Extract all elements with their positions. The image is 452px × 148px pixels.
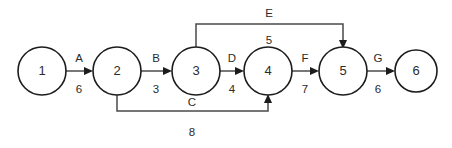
activity-network-diagram: A 6 B 3 C 8 D 4 E 5 [0,0,452,148]
edge-f-label: F [301,52,308,64]
edge-a-weight: 6 [76,83,82,95]
edge-g[interactable]: G 6 [367,52,395,95]
node-3[interactable]: 3 [172,47,220,95]
edge-f-weight: 7 [302,83,308,95]
edge-a[interactable]: A 6 [66,52,93,95]
edge-d-weight: 4 [229,83,236,95]
edge-a-arrowhead [84,67,93,75]
node-1[interactable]: 1 [18,47,66,95]
edge-b-arrowhead [163,67,172,75]
edge-g-weight: 6 [375,83,381,95]
node-3-label: 3 [192,63,199,78]
node-2[interactable]: 2 [93,47,141,95]
edge-b[interactable]: B 3 [141,52,172,95]
edge-d[interactable]: D 4 [220,52,244,95]
edge-c-weight: 8 [189,126,195,138]
edge-d-label: D [228,52,236,64]
edge-c[interactable]: C 8 [117,94,272,138]
edge-e-weight: 5 [266,34,272,46]
edge-f-arrowhead [310,67,319,75]
edge-e-label: E [265,7,273,19]
node-5[interactable]: 5 [319,47,367,95]
network-canvas: A 6 B 3 C 8 D 4 E 5 [0,0,452,148]
edge-g-label: G [374,52,383,64]
edge-g-arrowhead [386,67,395,75]
edge-e[interactable]: E 5 [196,7,347,49]
edge-b-weight: 3 [153,83,159,95]
edge-b-label: B [152,52,160,64]
edge-d-arrowhead [235,67,244,75]
node-6[interactable]: 6 [395,50,437,92]
node-4[interactable]: 4 [244,47,292,95]
edge-a-label: A [75,52,83,64]
node-5-label: 5 [339,63,346,78]
node-4-label: 4 [264,63,271,78]
node-6-label: 6 [412,63,419,78]
node-1-label: 1 [38,63,45,78]
edge-f[interactable]: F 7 [292,52,319,95]
node-2-label: 2 [113,63,120,78]
edge-c-label: C [188,96,196,108]
